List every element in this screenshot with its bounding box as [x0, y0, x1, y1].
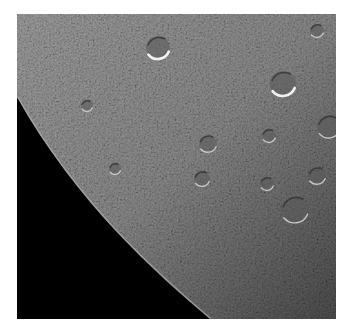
- crater: [308, 167, 326, 185]
- crater: [81, 100, 93, 112]
- crater: [260, 177, 274, 191]
- crater: [194, 171, 210, 187]
- moon-surface-image: [17, 14, 336, 319]
- crater: [109, 163, 121, 175]
- crater: [270, 71, 296, 97]
- crater: [146, 36, 170, 60]
- crater: [199, 135, 217, 153]
- crater: [262, 129, 276, 143]
- moon-surface-photo: [17, 14, 336, 319]
- crater: [281, 196, 309, 224]
- crater: [310, 24, 324, 38]
